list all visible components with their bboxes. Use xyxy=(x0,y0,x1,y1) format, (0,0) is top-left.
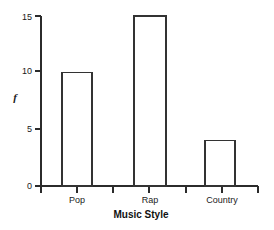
bar-country[interactable] xyxy=(205,141,235,186)
y-tick-label-15: 15 xyxy=(22,12,32,22)
x-category-label-rap: Rap xyxy=(142,195,159,205)
x-category-label-pop: Pop xyxy=(69,195,85,205)
y-tick-label-5: 5 xyxy=(27,124,32,134)
chart-canvas: 0 5 10 15 f Pop Rap Country Music Style xyxy=(0,0,274,230)
x-axis-title: Music Style xyxy=(113,209,168,220)
bar-chart-figure: 0 5 10 15 f Pop Rap Country Music Style xyxy=(0,0,274,230)
bar-rap[interactable] xyxy=(134,16,166,186)
bar-pop[interactable] xyxy=(62,73,92,186)
y-tick-label-0: 0 xyxy=(27,181,32,191)
y-tick-label-10: 10 xyxy=(22,66,32,76)
x-category-label-country: Country xyxy=(206,195,238,205)
